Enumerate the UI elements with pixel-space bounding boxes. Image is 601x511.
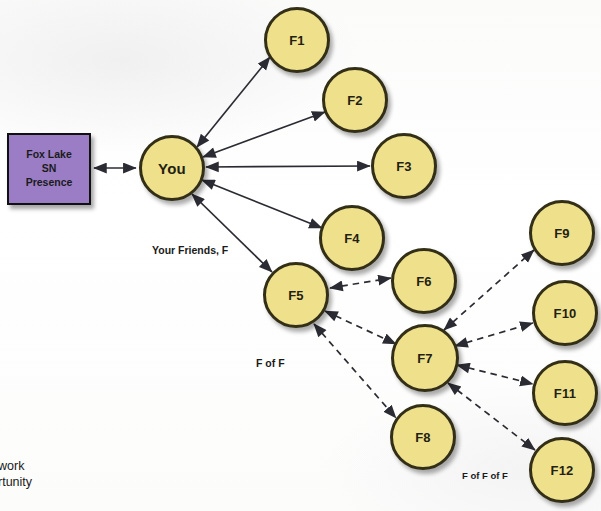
fox-lake-sn-presence-box[interactable]: Fox Lake SN Presence — [7, 133, 91, 205]
node-f12[interactable]: F12 — [529, 437, 595, 503]
edge-you-f5 — [192, 194, 272, 272]
node-f4[interactable]: F4 — [319, 205, 385, 271]
node-f6[interactable]: F6 — [391, 248, 457, 314]
node-f3[interactable]: F3 — [371, 133, 437, 199]
node-f8[interactable]: F8 — [390, 404, 456, 470]
node-you[interactable]: You — [139, 135, 205, 201]
edge-you-f2 — [203, 112, 325, 157]
node-label-f7: F7 — [417, 351, 433, 366]
bottom-left-note-line2: rtunity — [0, 474, 32, 490]
node-label-f3: F3 — [396, 159, 412, 174]
node-label-f9: F9 — [554, 226, 570, 241]
diagram-canvas: Fox Lake SN Presence YouF1F2F3F4F5F6F7F8… — [0, 0, 601, 511]
source-box-line2: SN — [26, 162, 73, 176]
caption-f-of-f: F of F — [256, 357, 285, 369]
node-f9[interactable]: F9 — [529, 200, 595, 266]
bottom-left-note: work rtunity — [0, 458, 32, 490]
node-label-f5: F5 — [288, 288, 304, 303]
edge-f7-f11 — [457, 365, 533, 384]
edge-f7-f9 — [444, 250, 534, 330]
source-box-line1: Fox Lake — [26, 148, 73, 162]
edge-f5-f8 — [314, 324, 396, 418]
node-label-f12: F12 — [550, 463, 573, 478]
caption-f-of-f-of-f: F of F of F — [462, 470, 508, 481]
node-f5[interactable]: F5 — [263, 262, 329, 328]
node-label-f4: F4 — [344, 231, 360, 246]
caption-your-friends: Your Friends, F — [152, 244, 228, 256]
source-box-line3: Presence — [26, 176, 73, 190]
node-label-f2: F2 — [347, 93, 363, 108]
edge-f5-f7 — [325, 311, 396, 344]
node-label-you: You — [158, 160, 186, 177]
edge-f5-f6 — [330, 278, 391, 288]
node-f1[interactable]: F1 — [264, 7, 330, 73]
bottom-left-note-line1: work — [0, 458, 32, 474]
node-label-f10: F10 — [553, 306, 576, 321]
node-f10[interactable]: F10 — [532, 280, 598, 346]
node-label-f8: F8 — [415, 430, 431, 445]
node-f11[interactable]: F11 — [532, 360, 598, 426]
edge-f7-f12 — [448, 383, 535, 450]
edge-layer — [0, 0, 601, 511]
edge-you-f3 — [206, 166, 370, 167]
node-label-f11: F11 — [554, 386, 576, 401]
edge-f7-f10 — [455, 323, 533, 346]
node-label-f1: F1 — [289, 33, 305, 48]
node-label-f6: F6 — [416, 274, 432, 289]
node-f7[interactable]: F7 — [391, 324, 459, 392]
edge-you-f1 — [197, 57, 270, 147]
node-f2[interactable]: F2 — [322, 67, 388, 133]
